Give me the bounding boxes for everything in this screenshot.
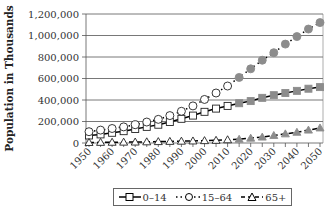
y-tick-label: 200,000 bbox=[38, 116, 79, 127]
data-point bbox=[247, 98, 254, 105]
legend-item-15-64: 15–64 bbox=[176, 192, 232, 203]
data-point bbox=[317, 84, 324, 91]
data-point bbox=[293, 87, 300, 94]
y-tick-label: 400,000 bbox=[38, 95, 79, 106]
data-point bbox=[281, 40, 289, 48]
x-tick-label: 1970 bbox=[114, 146, 140, 172]
square-marker-icon bbox=[119, 192, 141, 202]
x-tick-label: 1960 bbox=[91, 146, 117, 172]
data-point bbox=[212, 89, 220, 97]
legend-item-65-plus: 65+ bbox=[241, 192, 286, 203]
data-point bbox=[143, 118, 151, 126]
y-tick-label: 1,200,000 bbox=[28, 9, 79, 20]
data-point bbox=[305, 85, 312, 92]
data-point bbox=[258, 56, 266, 64]
data-point bbox=[316, 19, 324, 27]
data-point bbox=[201, 108, 208, 115]
x-tick-label: 1980 bbox=[137, 146, 163, 172]
x-tick-label: 1990 bbox=[160, 146, 186, 172]
x-tick-label: 2040 bbox=[276, 146, 302, 172]
data-point bbox=[270, 92, 277, 99]
data-point bbox=[293, 33, 301, 41]
x-tick-label: 2010 bbox=[206, 146, 232, 172]
data-point bbox=[201, 95, 209, 103]
data-point bbox=[304, 25, 312, 33]
y-tick-label: 1,000,000 bbox=[28, 30, 79, 41]
data-point bbox=[166, 112, 174, 120]
chart-legend: 0–14 15–64 65+ bbox=[113, 188, 292, 206]
x-tick-label: 1950 bbox=[68, 146, 94, 172]
y-tick-label: 800,000 bbox=[38, 52, 79, 63]
data-point bbox=[213, 105, 220, 112]
data-point bbox=[154, 115, 162, 123]
data-point bbox=[120, 123, 128, 131]
data-point bbox=[178, 115, 185, 122]
data-point bbox=[97, 126, 105, 134]
x-tick-label: 2050 bbox=[299, 146, 325, 172]
x-tick-label: 2030 bbox=[252, 146, 278, 172]
x-tick-label: 2000 bbox=[183, 146, 209, 172]
data-point bbox=[304, 126, 312, 133]
data-point bbox=[247, 65, 255, 73]
legend-label: 15–64 bbox=[202, 192, 232, 203]
legend-label: 65+ bbox=[265, 192, 286, 203]
data-point bbox=[177, 107, 185, 115]
data-point bbox=[224, 136, 232, 143]
data-point bbox=[224, 82, 232, 90]
triangle-marker-icon bbox=[241, 192, 263, 202]
legend-item-0-14: 0–14 bbox=[119, 192, 167, 203]
data-point bbox=[189, 112, 196, 119]
data-point bbox=[281, 130, 289, 137]
x-tick-label: 2020 bbox=[229, 146, 255, 172]
data-point bbox=[282, 90, 289, 97]
data-point bbox=[270, 49, 278, 57]
data-point bbox=[259, 94, 266, 101]
data-point bbox=[120, 138, 128, 145]
circle-marker-icon bbox=[176, 192, 200, 202]
data-point bbox=[131, 121, 139, 129]
y-tick-label: 0 bbox=[73, 138, 79, 149]
y-tick-label: 600,000 bbox=[38, 73, 79, 84]
data-point bbox=[108, 124, 116, 132]
data-point bbox=[189, 102, 197, 110]
y-axis-label: Population in Thousands bbox=[3, 5, 15, 152]
population-chart: 0200,000400,000600,000800,0001,000,0001,… bbox=[0, 0, 335, 190]
data-point bbox=[236, 100, 243, 107]
data-point bbox=[235, 73, 243, 81]
data-point bbox=[85, 128, 93, 136]
legend-label: 0–14 bbox=[143, 192, 167, 203]
data-point bbox=[224, 102, 231, 109]
